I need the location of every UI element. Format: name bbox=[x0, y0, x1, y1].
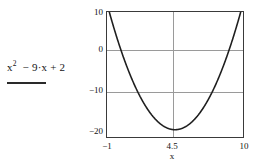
plot-frame bbox=[106, 11, 244, 138]
y-tick-label-neg20: −20 bbox=[82, 127, 103, 136]
plot-figure: 10 0 −10 −20 −1 4.5 10 x bbox=[0, 0, 255, 166]
x-tick-label-10: 10 bbox=[234, 142, 254, 151]
parabola-curve bbox=[107, 12, 243, 137]
x-tick-label-neg1: −1 bbox=[96, 142, 118, 151]
y-tick-label-0: 0 bbox=[82, 45, 103, 54]
y-tick-label-neg10: −10 bbox=[82, 86, 103, 95]
x-axis-label: x bbox=[156, 152, 188, 161]
x-tick-label-4p5: 4.5 bbox=[158, 142, 186, 151]
y-tick-label-10: 10 bbox=[82, 8, 103, 17]
